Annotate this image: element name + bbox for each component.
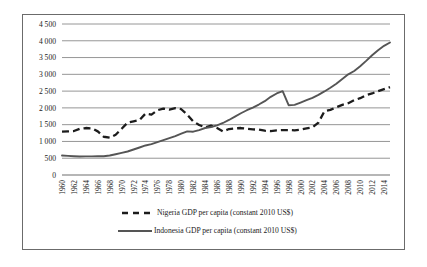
x-axis-tick-label: 2006 xyxy=(332,180,341,195)
x-axis-tick-label: 2014 xyxy=(380,180,389,195)
y-axis-tick-label: 1 500 xyxy=(39,120,56,129)
legend-label: Nigeria GDP per capita (constant 2010 US… xyxy=(157,208,293,217)
x-axis-tick-label: 1996 xyxy=(273,180,282,195)
y-axis-tick-label: 2 000 xyxy=(39,104,56,113)
plot-series xyxy=(62,42,390,156)
y-axis-tick-label: 4 500 xyxy=(39,20,56,29)
x-axis-tick-label: 1964 xyxy=(82,180,91,195)
x-axis-tick-label: 2002 xyxy=(308,180,317,195)
series-line-indonesia xyxy=(62,42,390,156)
x-axis-tick-label: 1980 xyxy=(177,180,186,195)
y-axis-tick-label: 2 500 xyxy=(39,87,56,96)
x-axis-tick-label: 1968 xyxy=(106,180,115,195)
y-axis-tick-label: 3 000 xyxy=(39,70,56,79)
chart-legend: Nigeria GDP per capita (constant 2010 US… xyxy=(118,208,297,235)
x-axis-tick-label: 1962 xyxy=(70,180,79,195)
y-axis-gridlines xyxy=(62,24,390,175)
y-axis-tick-label: 500 xyxy=(45,154,57,163)
x-axis-tick-label: 2004 xyxy=(320,180,329,195)
x-axis-tick-labels: 1960196219641966196819701972197419761978… xyxy=(58,180,389,195)
x-axis-tick-label: 2000 xyxy=(297,180,306,195)
x-axis-tick-label: 1992 xyxy=(249,180,258,195)
y-axis-tick-label: 1 000 xyxy=(39,137,56,146)
legend-label: Indonesia GDP per capita (constant 2010 … xyxy=(154,226,297,235)
x-axis-tick-label: 1984 xyxy=(201,180,210,195)
x-axis-tick-label: 1988 xyxy=(225,180,234,195)
x-axis-tick-label: 1976 xyxy=(153,180,162,195)
y-axis-tick-label: 0 xyxy=(52,171,56,180)
x-axis-tick-label: 1966 xyxy=(94,180,103,195)
x-axis-tick-label: 1982 xyxy=(189,180,198,195)
x-axis-tick-label: 2012 xyxy=(368,180,377,195)
gdp-per-capita-line-chart: 4 5004 0003 5003 0002 5002 0001 5001 000… xyxy=(0,0,427,267)
x-axis-tick-label: 1986 xyxy=(213,180,222,195)
x-axis-tick-label: 1978 xyxy=(165,180,174,195)
x-axis-tick-label: 2008 xyxy=(344,180,353,195)
x-axis-tick-label: 2010 xyxy=(356,180,365,195)
y-axis-tick-label: 4 000 xyxy=(39,37,56,46)
y-axis-tick-labels: 4 5004 0003 5003 0002 5002 0001 5001 000… xyxy=(39,20,56,180)
x-axis-tick-label: 1970 xyxy=(118,180,127,195)
y-axis-tick-label: 3 500 xyxy=(39,53,56,62)
x-axis-tick-label: 1998 xyxy=(285,180,294,195)
x-axis-tick-label: 1990 xyxy=(237,180,246,195)
x-axis-tick-label: 1994 xyxy=(261,180,270,195)
x-axis-tick-label: 1974 xyxy=(141,180,150,195)
x-axis-tick-label: 1972 xyxy=(130,180,139,195)
series-line-nigeria xyxy=(62,87,390,138)
x-axis-tick-label: 1960 xyxy=(58,180,67,195)
